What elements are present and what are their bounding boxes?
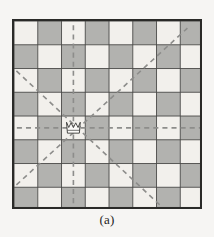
figure-container: (a) (0, 0, 214, 237)
board-square[interactable] (14, 45, 38, 69)
board-square[interactable] (157, 140, 181, 164)
board-square[interactable] (38, 187, 62, 209)
chessboard-canvas (12, 19, 202, 209)
board-square[interactable] (180, 187, 202, 209)
board-square[interactable] (157, 21, 181, 45)
board-square[interactable] (133, 69, 157, 93)
board-square[interactable] (85, 164, 109, 188)
board-square[interactable] (38, 45, 62, 69)
board-square[interactable] (62, 140, 86, 164)
board-square[interactable] (109, 164, 133, 188)
board-square[interactable] (180, 69, 202, 93)
board-square[interactable] (133, 92, 157, 116)
board-square[interactable] (133, 140, 157, 164)
board-square[interactable] (180, 92, 202, 116)
board-square[interactable] (85, 45, 109, 69)
board-square[interactable] (62, 92, 86, 116)
board-square[interactable] (38, 92, 62, 116)
figure-caption: (a) (0, 212, 214, 228)
board-square[interactable] (38, 140, 62, 164)
board-square[interactable] (157, 45, 181, 69)
board-square[interactable] (85, 116, 109, 140)
board-squares-layer (14, 21, 202, 209)
board-square[interactable] (14, 187, 38, 209)
board-square[interactable] (14, 21, 38, 45)
board-square[interactable] (14, 92, 38, 116)
board-square[interactable] (62, 21, 86, 45)
board-square[interactable] (109, 187, 133, 209)
board-square[interactable] (180, 164, 202, 188)
board-square[interactable] (109, 45, 133, 69)
board-square[interactable] (157, 92, 181, 116)
board-square[interactable] (157, 69, 181, 93)
board-square[interactable] (85, 21, 109, 45)
board-square[interactable] (133, 21, 157, 45)
chessboard[interactable] (12, 19, 202, 209)
board-square[interactable] (85, 187, 109, 209)
board-square[interactable] (38, 69, 62, 93)
board-square[interactable] (109, 21, 133, 45)
board-square[interactable] (180, 140, 202, 164)
board-square[interactable] (38, 21, 62, 45)
board-square[interactable] (85, 140, 109, 164)
board-square[interactable] (157, 187, 181, 209)
board-square[interactable] (180, 45, 202, 69)
board-square[interactable] (109, 69, 133, 93)
board-square[interactable] (85, 69, 109, 93)
board-square[interactable] (157, 116, 181, 140)
board-square[interactable] (38, 164, 62, 188)
board-square[interactable] (133, 45, 157, 69)
board-square[interactable] (157, 164, 181, 188)
board-square[interactable] (14, 140, 38, 164)
board-square[interactable] (180, 21, 202, 45)
